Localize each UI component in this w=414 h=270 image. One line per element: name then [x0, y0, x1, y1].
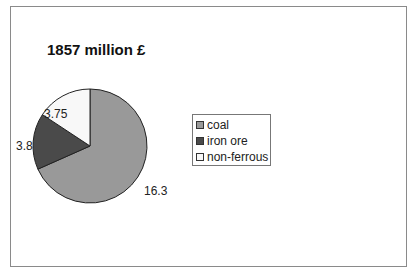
legend-swatch-non-ferrous: [196, 153, 204, 161]
legend-label: non-ferrous: [207, 150, 268, 164]
data-label-coal: 16.3: [144, 184, 167, 198]
legend-swatch-iron-ore: [196, 137, 204, 145]
legend-label: coal: [207, 118, 229, 132]
legend-item-iron-ore: iron ore: [196, 133, 248, 148]
data-label-iron-ore: 3.8: [16, 139, 33, 153]
legend: coal iron ore non-ferrous: [192, 114, 271, 166]
legend-swatch-coal: [196, 121, 204, 129]
data-label-non-ferrous: 3.75: [44, 107, 67, 121]
legend-item-coal: coal: [196, 117, 229, 132]
legend-label: iron ore: [207, 134, 248, 148]
legend-item-non-ferrous: non-ferrous: [196, 149, 268, 164]
